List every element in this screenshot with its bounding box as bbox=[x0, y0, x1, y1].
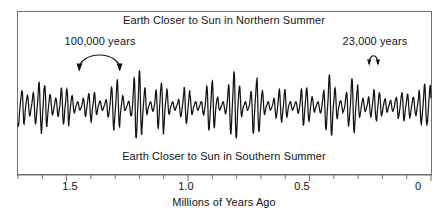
annotation-arc-23k bbox=[367, 56, 380, 66]
x-tick-label-1-0: 1.0 bbox=[166, 180, 206, 192]
upper-region-label: Earth Closer to Sun in Northern Summer bbox=[0, 14, 448, 27]
annotation-label-23k: 23,000 years bbox=[320, 35, 430, 48]
x-tick-label-0-5: 0.5 bbox=[282, 180, 322, 192]
x-tick-label-1-5: 1.5 bbox=[50, 180, 90, 192]
annotation-label-100k: 100,000 years bbox=[45, 35, 155, 48]
lower-region-label: Earth Closer to Sun in Southern Summer bbox=[0, 150, 448, 163]
annotation-arc-100k bbox=[76, 55, 122, 72]
x-tick-label-0: 0 bbox=[404, 180, 432, 192]
milankovitch-precession-figure: Earth Closer to Sun in Northern Summer E… bbox=[0, 0, 448, 220]
x-axis-title: Millions of Years Ago bbox=[0, 196, 448, 209]
precession-waveform bbox=[18, 70, 431, 138]
